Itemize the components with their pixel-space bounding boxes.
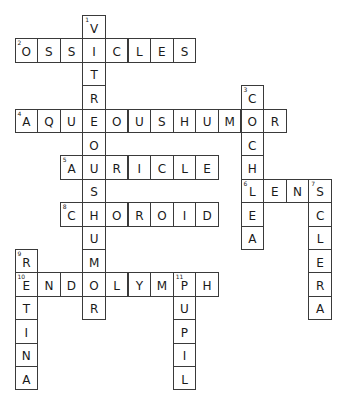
- crossword-cell[interactable]: E: [82, 109, 106, 133]
- crossword-cell[interactable]: O: [82, 272, 106, 296]
- crossword-cell[interactable]: R: [82, 296, 106, 320]
- crossword-cell[interactable]: L: [128, 38, 152, 62]
- crossword-cell[interactable]: E: [308, 249, 332, 273]
- cell-letter: A: [316, 303, 324, 315]
- crossword-cell[interactable]: N: [37, 272, 61, 296]
- crossword-cell[interactable]: L: [308, 226, 332, 250]
- cell-letter: E: [158, 46, 166, 58]
- cell-letter: C: [248, 140, 256, 152]
- crossword-cell[interactable]: U: [128, 109, 152, 133]
- crossword-cell[interactable]: 5A: [60, 155, 84, 179]
- crossword-cell[interactable]: P: [173, 319, 197, 343]
- crossword-cell[interactable]: S: [37, 38, 61, 62]
- cell-letter: U: [67, 116, 76, 128]
- crossword-cell[interactable]: E: [241, 202, 265, 226]
- crossword-cell[interactable]: U: [82, 226, 106, 250]
- cell-letter: U: [90, 233, 99, 245]
- crossword-cell[interactable]: N: [15, 343, 39, 367]
- crossword-cell[interactable]: H: [173, 109, 197, 133]
- crossword-cell[interactable]: A: [241, 226, 265, 250]
- crossword-cell[interactable]: N: [286, 179, 310, 203]
- crossword-cell[interactable]: R: [105, 155, 129, 179]
- crossword-cell[interactable]: R: [308, 272, 332, 296]
- crossword-cell[interactable]: L: [173, 366, 197, 390]
- crossword-cell[interactable]: T: [15, 296, 39, 320]
- cell-letter: C: [158, 163, 166, 175]
- crossword-cell[interactable]: 4A: [15, 109, 39, 133]
- clue-number: 9: [18, 250, 22, 257]
- cell-letter: I: [25, 327, 29, 339]
- crossword-cell[interactable]: E: [195, 155, 219, 179]
- clue-number: 7: [311, 180, 315, 187]
- crossword-cell[interactable]: Y: [128, 272, 152, 296]
- crossword-cell[interactable]: O: [150, 202, 174, 226]
- crossword-cell[interactable]: I: [128, 155, 152, 179]
- crossword-cell[interactable]: Q: [37, 109, 61, 133]
- crossword-cell[interactable]: U: [173, 296, 197, 320]
- cell-letter: P: [181, 327, 188, 339]
- cell-letter: N: [44, 280, 53, 292]
- crossword-cell[interactable]: I: [82, 38, 106, 62]
- crossword-cell[interactable]: D: [60, 272, 84, 296]
- cell-letter: O: [89, 280, 98, 292]
- cell-letter: R: [316, 280, 324, 292]
- clue-number: 8: [63, 203, 67, 210]
- crossword-cell[interactable]: 1V: [82, 15, 106, 39]
- crossword-cell[interactable]: I: [173, 343, 197, 367]
- clue-number: 1: [85, 16, 89, 23]
- crossword-cell[interactable]: 2O: [15, 38, 39, 62]
- crossword-cell[interactable]: A: [15, 366, 39, 390]
- crossword-cell[interactable]: R: [82, 85, 106, 109]
- crossword-cell[interactable]: 6L: [241, 179, 265, 203]
- cell-letter: I: [138, 163, 142, 175]
- crossword-cell[interactable]: S: [173, 38, 197, 62]
- crossword-cell[interactable]: 9R: [15, 249, 39, 273]
- clue-number: 10: [18, 273, 26, 280]
- crossword-cell[interactable]: L: [105, 272, 129, 296]
- crossword-cell[interactable]: D: [195, 202, 219, 226]
- crossword-cell[interactable]: 3C: [241, 85, 265, 109]
- crossword-cell[interactable]: S: [82, 179, 106, 203]
- crossword-cell[interactable]: E: [263, 179, 287, 203]
- crossword-cell[interactable]: L: [173, 155, 197, 179]
- crossword-cell[interactable]: R: [263, 109, 287, 133]
- cell-letter: E: [249, 210, 257, 222]
- crossword-cell[interactable]: I: [15, 319, 39, 343]
- crossword-cell[interactable]: S: [60, 38, 84, 62]
- cell-letter: E: [23, 280, 31, 292]
- crossword-cell[interactable]: 11P: [173, 272, 197, 296]
- crossword-cell[interactable]: O: [82, 132, 106, 156]
- crossword-cell[interactable]: 8C: [60, 202, 84, 226]
- crossword-cell[interactable]: C: [105, 38, 129, 62]
- crossword-cell[interactable]: S: [150, 109, 174, 133]
- crossword-cell[interactable]: C: [150, 155, 174, 179]
- crossword-cell[interactable]: U: [60, 109, 84, 133]
- crossword-cell[interactable]: U: [195, 109, 219, 133]
- crossword-cell[interactable]: O: [241, 109, 265, 133]
- cell-letter: A: [22, 116, 30, 128]
- crossword-cell[interactable]: O: [105, 109, 129, 133]
- cell-letter: U: [90, 163, 99, 175]
- crossword-cell[interactable]: 10E: [15, 272, 39, 296]
- cell-letter: S: [316, 186, 324, 198]
- crossword-cell[interactable]: U: [82, 155, 106, 179]
- crossword-cell[interactable]: M: [82, 249, 106, 273]
- cell-letter: H: [248, 163, 257, 175]
- crossword-cell[interactable]: 7S: [308, 179, 332, 203]
- crossword-cell[interactable]: R: [128, 202, 152, 226]
- crossword-cell[interactable]: M: [150, 272, 174, 296]
- cell-letter: Y: [136, 280, 143, 292]
- clue-number: 3: [244, 86, 248, 93]
- crossword-cell[interactable]: T: [82, 62, 106, 86]
- crossword-cell[interactable]: E: [150, 38, 174, 62]
- crossword-cell[interactable]: A: [308, 296, 332, 320]
- cell-letter: T: [23, 303, 30, 315]
- crossword-cell[interactable]: I: [173, 202, 197, 226]
- crossword-cell[interactable]: H: [82, 202, 106, 226]
- crossword-cell[interactable]: C: [308, 202, 332, 226]
- crossword-cell[interactable]: M: [218, 109, 242, 133]
- crossword-cell[interactable]: C: [241, 132, 265, 156]
- crossword-cell[interactable]: O: [105, 202, 129, 226]
- crossword-cell[interactable]: H: [195, 272, 219, 296]
- crossword-cell[interactable]: H: [241, 155, 265, 179]
